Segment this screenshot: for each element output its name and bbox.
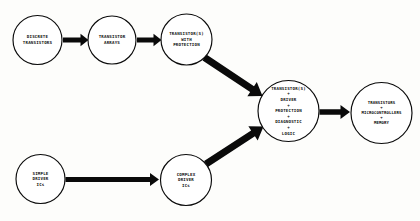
arrow-discrete-to-arrays bbox=[63, 34, 89, 47]
node-label-line: WITH bbox=[181, 37, 192, 42]
arrow-simple-to-complex bbox=[66, 173, 160, 186]
node-label-line: MEMORY bbox=[374, 120, 390, 125]
node-label-line: TRANSISTOR(S) bbox=[169, 31, 204, 36]
node-label-line: PROTECTION bbox=[275, 108, 302, 113]
flow-diagram-svg: DISCRETETRANSISTORSTRANSISTORARRAYSTRANS… bbox=[0, 0, 420, 221]
node-simple-driver-ics[interactable]: SIMPLEDRIVERICs bbox=[16, 155, 65, 204]
arrow-protection-to-core bbox=[203, 55, 263, 97]
node-label-line: COMPLEX bbox=[177, 172, 196, 177]
node-discrete-transistors[interactable]: DISCRETETRANSISTORS bbox=[13, 16, 62, 65]
node-transistors-microcontrollers-memory[interactable]: TRANSISTORS+MICROCONTROLLERS+MEMORY bbox=[351, 83, 412, 144]
node-label-line: + bbox=[287, 114, 290, 119]
node-label-line: + bbox=[287, 103, 290, 108]
node-driver-protection-diagnostic-logic[interactable]: TRANSISTOR(S)+DRIVER+PROTECTION+DIAGNOST… bbox=[258, 81, 319, 142]
node-label-line: DISCRETE bbox=[27, 34, 49, 39]
node-transistors-with-protection[interactable]: TRANSISTOR(S)WITHPROTECTION bbox=[161, 14, 212, 65]
arrow-complex-to-core bbox=[204, 126, 263, 167]
arrow-core-to-microcontrollers bbox=[320, 105, 351, 119]
node-label-line: ICs bbox=[182, 183, 190, 188]
node-label-line: PROTECTION bbox=[173, 42, 200, 47]
node-label-line: ARRAYS bbox=[104, 40, 120, 45]
arrow-arrays-to-protection bbox=[137, 34, 162, 47]
node-label-line: TRANSISTORS bbox=[23, 40, 53, 45]
node-complex-driver-ics[interactable]: COMPLEXDRIVERICs bbox=[161, 155, 212, 206]
node-label-line: TRANSISTOR bbox=[99, 34, 126, 39]
node-label-line: DRIVER bbox=[280, 97, 296, 102]
node-transistor-arrays[interactable]: TRANSISTORARRAYS bbox=[88, 16, 136, 64]
node-label-line: DRIVER bbox=[32, 176, 48, 181]
node-label-line: + bbox=[287, 125, 290, 130]
node-label-line: TRANSISTOR(S) bbox=[271, 86, 306, 91]
node-label-line: DIAGNOSTIC bbox=[275, 119, 302, 124]
node-label-line: DRIVER bbox=[178, 177, 194, 182]
node-label-line: LOGIC bbox=[282, 131, 296, 136]
node-label-line: SIMPLE bbox=[32, 171, 48, 176]
node-label-line: + bbox=[287, 91, 290, 96]
nodes-layer: DISCRETETRANSISTORSTRANSISTORARRAYSTRANS… bbox=[13, 14, 412, 206]
flow-diagram-canvas: DISCRETETRANSISTORSTRANSISTORARRAYSTRANS… bbox=[0, 0, 420, 221]
node-label-line: ICs bbox=[36, 182, 44, 187]
